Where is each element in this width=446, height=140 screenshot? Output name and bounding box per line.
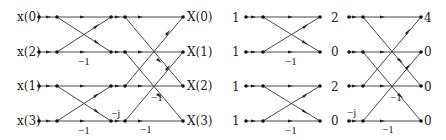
intermediate-value: 0	[331, 114, 339, 128]
diagram-canvas: x(0) x(2) x(1) x(3) X(0) X(1) X(2) X(3)	[0, 0, 446, 140]
intermediate-value: 0	[331, 45, 339, 59]
intermediate-value: 2	[331, 11, 339, 25]
gain-label: −1	[285, 124, 297, 136]
output-label: X(3)	[187, 114, 213, 128]
twiddle-label: −j	[347, 106, 356, 118]
input-value: 1	[232, 45, 240, 59]
output-value: 0	[424, 114, 432, 128]
gain-label: −1	[140, 123, 152, 135]
gain-label: −1	[382, 123, 394, 135]
gain-label: −1	[151, 91, 163, 103]
gain-label: −1	[285, 55, 297, 67]
right-nodes	[244, 15, 423, 123]
output-value: 0	[424, 45, 432, 59]
input-branches	[39, 16, 57, 123]
input-value: 1	[232, 11, 240, 25]
intermediate-value: 2	[331, 80, 339, 94]
gain-label: −1	[390, 91, 402, 103]
right-stage1	[246, 16, 320, 123]
right-flow-graph: 1 1 1 1 2 0 2 0 4 0 0 0	[232, 11, 432, 136]
output-label: X(2)	[187, 79, 213, 93]
left-flow-graph: x(0) x(2) x(1) x(3) X(0) X(1) X(2) X(3)	[17, 10, 213, 136]
output-value: 0	[424, 80, 432, 94]
stage2-butterflies	[125, 16, 183, 123]
gain-label: −1	[78, 55, 90, 67]
fft-flow-graph-figure: x(0) x(2) x(1) x(3) X(0) X(1) X(2) X(3)	[0, 0, 446, 140]
output-label: X(1)	[187, 45, 213, 59]
gain-label: −1	[78, 124, 90, 136]
twiddle-label: −j	[111, 107, 120, 119]
stage1-butterflies	[57, 16, 111, 123]
right-stage2	[349, 16, 421, 123]
input-value: 1	[232, 114, 240, 128]
output-label: X(0)	[187, 10, 213, 24]
input-value: 1	[232, 80, 240, 94]
output-value: 4	[424, 11, 432, 25]
